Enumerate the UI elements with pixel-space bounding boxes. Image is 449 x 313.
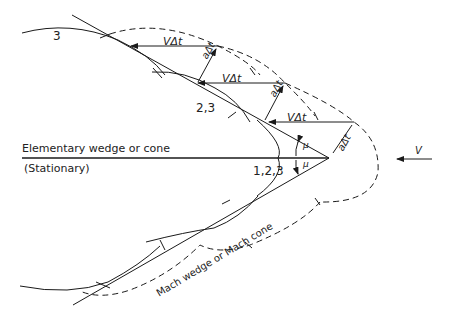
mach-angle-label-lower: μ — [303, 160, 309, 169]
mach-cone-diagram — [0, 0, 449, 313]
displacement-label-3: VΔt — [287, 112, 306, 123]
lower-mach-line — [73, 158, 329, 305]
wave-arc-3-upper — [22, 28, 165, 75]
mach-angle-arc-lower — [296, 160, 298, 174]
displacement-label-1: VΔt — [163, 36, 182, 47]
position-1-2-3-label: 1,2,3 — [253, 165, 284, 177]
dashed-arc-bottom — [80, 202, 320, 295]
velocity-label: V — [415, 146, 422, 156]
upper-mach-line — [72, 15, 329, 158]
position-2-3-label: 2,3 — [196, 102, 215, 114]
wedge-state-label: (Stationary) — [24, 163, 89, 174]
wedge-title-label: Elementary wedge or cone — [22, 143, 170, 154]
position-3-label: 3 — [53, 30, 61, 42]
wave-arc-2-lower — [146, 196, 258, 242]
mach-angle-arc-upper — [296, 142, 298, 156]
displacement-label-2: VΔt — [222, 73, 241, 84]
wave-arc-3-lower — [20, 246, 160, 290]
mach-angle-label-upper: μ — [303, 141, 309, 150]
dashed-arc-right — [285, 83, 378, 202]
